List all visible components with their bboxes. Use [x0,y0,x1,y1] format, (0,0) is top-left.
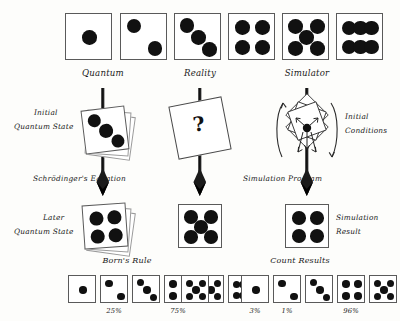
die-face-2 [120,13,167,60]
die-pip [310,211,324,225]
die-pip [278,280,286,288]
die-pip [186,293,194,301]
die-pip [143,286,151,294]
count-results-percent-4: 96% [343,307,359,315]
die-pip [380,286,388,294]
die-pip [202,42,217,57]
die-pip [148,41,163,56]
die-pip [150,294,158,302]
initial-conditions-line1: Initial [345,112,369,121]
die-pip [292,229,306,243]
count-results-die-4 [337,275,365,303]
die-pip [310,279,318,287]
borns-rule-die-2 [100,275,128,303]
die-pip [364,40,379,55]
die-pip [105,280,113,288]
die-pip [235,20,250,35]
die-face-4 [228,13,275,60]
die-pip [79,286,87,294]
die-pip [288,41,303,56]
column-label-reality: Reality [184,68,216,78]
die-pip [292,211,306,225]
die-pip [354,292,362,300]
die-pip [169,292,177,300]
die-pip [127,19,142,34]
borns-rule-title: Born's Rule [102,256,151,265]
die-pip [204,230,218,244]
initial-conditions-line2: Conditions [345,126,387,135]
die-face-1 [65,13,112,60]
count-results-die-3 [305,275,333,303]
die-pip [199,280,207,288]
count-results-die-2 [273,275,301,303]
later-quantum-state-line2: Quantum State [14,227,73,236]
borns-rule-die-1 [68,275,96,303]
schrodinger-equation-label: Schrödinger's Equation [33,174,126,183]
die-pip [323,294,331,302]
count-results-die-1 [241,275,269,303]
die-pip [310,229,324,243]
column-label-quantum: Quantum [82,68,124,78]
count-results-title: Count Results [270,256,330,265]
die-pip [214,280,222,288]
die-pip [99,123,114,138]
die-pip [109,228,124,243]
simulation-result-die [285,204,329,248]
die-pip [374,293,382,301]
die-pip [180,18,195,33]
die-pip [316,286,324,294]
die-pip [184,230,198,244]
count-results-die-5 [369,275,397,303]
die-pip [255,20,270,35]
die-face-6 [336,13,383,60]
count-results-percent-1: 3% [249,307,260,315]
die-face-3 [174,13,221,60]
later-quantum-state-die [82,203,129,250]
die-pip [117,293,125,301]
borns-rule-percent-4: 75% [170,307,186,315]
die-pip [342,280,350,288]
die-pip [90,229,105,244]
count-results-percent-2: 1% [281,307,292,315]
borns-rule-percent-2: 25% [106,307,122,315]
die-face-5 [282,13,329,60]
die-pip [82,30,97,45]
later-quantum-state-line1: Later [43,213,64,222]
die-pip [192,286,200,294]
die-pip [387,293,395,301]
die-pip [235,40,250,55]
simulation-result-line2: Result [336,227,361,236]
simulation-program-label: Simulation Program [243,174,322,183]
simulation-result-line1: Simulation [336,213,379,222]
reality-result-die [178,204,222,248]
die-pip [191,30,206,45]
initial-quantum-state-die [80,105,129,154]
column-label-simulator: Simulator [285,68,330,78]
die-pip [255,40,270,55]
die-pip [252,286,260,294]
die-pip [214,293,222,301]
die-pip [342,292,350,300]
reality-outcome-die [181,275,209,303]
die-pip [107,210,122,225]
initial-quantum-state-line2: Quantum State [14,122,73,131]
die-pip [354,280,362,288]
die-pip [137,279,145,287]
die-pip [387,280,395,288]
die-pip [310,41,325,56]
die-pip [290,293,298,301]
figure-canvas: Quantum Reality Simulator Initial Quantu… [0,0,400,321]
die-pip [110,133,125,148]
borns-rule-die-3 [132,275,160,303]
die-pip [169,280,177,288]
initial-quantum-state-line1: Initial [34,108,58,117]
die-pip [89,211,104,226]
die-pip [364,21,379,36]
die-pip [199,293,207,301]
